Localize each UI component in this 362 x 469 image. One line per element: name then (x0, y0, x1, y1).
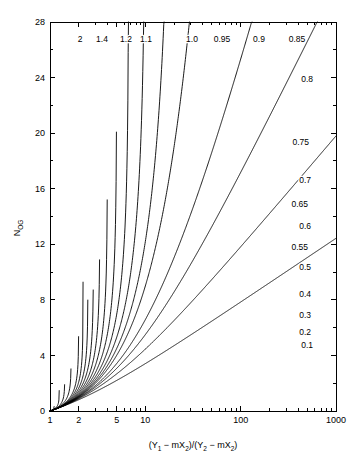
y-tick-label: 12 (35, 239, 45, 249)
y-tick-label: 8 (40, 295, 45, 305)
curve-line (50, 22, 252, 411)
x-tick-label: 1 (47, 415, 52, 425)
curve-label-0_85: 0.85 (289, 34, 306, 44)
x-title-close2: ) (234, 440, 237, 450)
curve-label-0_4: 0.4 (299, 289, 311, 299)
axis-ticks (50, 22, 336, 411)
curve-label-0_9: 0.9 (253, 34, 265, 44)
y-tick-label: 0 (40, 406, 45, 416)
curve-label-0_2: 0.2 (299, 327, 311, 337)
curve-label-0_95: 0.95 (214, 34, 231, 44)
x-title-mid2: − mX (207, 440, 231, 450)
curve-labels: 221.41.41.21.21.11.11.01.00.950.950.90.9… (78, 34, 314, 350)
curve-label-0_6: 0.6 (299, 221, 311, 231)
svg-text:(Y1 − mX2)/(Y2 − mX2): (Y1 − mX2)/(Y2 − mX2) (149, 440, 238, 452)
x-tick-label: 100 (233, 415, 248, 425)
x-tick-label: 10 (140, 415, 150, 425)
curve-label-0_75: 0.75 (292, 137, 309, 147)
y-axis-title-subscript: OG (17, 220, 24, 230)
x-tick-label: 1000 (326, 415, 346, 425)
curve-line (50, 22, 128, 411)
x-title-open: (Y (149, 440, 158, 450)
x-axis-title: (Y1 − mX2)/(Y2 − mX2) (149, 440, 238, 452)
curve-label-1_0: 1.0 (186, 34, 198, 44)
curve-label-2: 2 (78, 34, 83, 44)
curve-lines (50, 22, 336, 411)
curve-line (50, 22, 190, 411)
y-axis-title: NOG (12, 220, 24, 237)
curve-label-0_65: 0.65 (291, 199, 308, 209)
curve-label-0_7: 0.7 (299, 175, 311, 185)
curve-label-0_5: 0.5 (299, 262, 311, 272)
curve-label-0_3: 0.3 (299, 310, 311, 320)
x-title-close1: )/(Y (189, 440, 204, 450)
x-tick-label: 2 (76, 415, 81, 425)
y-tick-label: 16 (35, 184, 45, 194)
curve-label-1_1: 1.1 (140, 34, 152, 44)
x-title-mid1: − mX (161, 440, 185, 450)
curve-label-0_8: 0.8 (301, 74, 313, 84)
curve-line (50, 407, 54, 411)
y-tick-label: 24 (35, 73, 45, 83)
x-tick-label: 5 (114, 415, 119, 425)
curve-label-0_1: 0.1 (301, 340, 313, 350)
curve-line (50, 385, 65, 411)
colburn-chart: 1251010010000481216202428 221.41.41.21.2… (0, 0, 362, 469)
curve-label-1_4: 1.4 (96, 34, 108, 44)
plot-frame (50, 22, 336, 411)
curve-line (50, 22, 317, 411)
y-tick-label: 28 (35, 17, 45, 27)
curve-line (50, 22, 144, 411)
figure-container: 1251010010000481216202428 221.41.41.21.2… (0, 0, 362, 469)
svg-text:NOG: NOG (12, 220, 24, 237)
y-tick-label: 4 (40, 351, 45, 361)
y-tick-label: 20 (35, 128, 45, 138)
curve-label-1_2: 1.2 (120, 34, 132, 44)
curve-line (50, 136, 336, 411)
curve-label-0_55: 0.55 (291, 242, 308, 252)
